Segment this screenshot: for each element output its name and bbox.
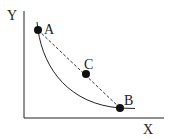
diagram-canvas: Y X A C B bbox=[0, 0, 172, 139]
dashed-chord bbox=[38, 30, 120, 108]
point-c-label: C bbox=[84, 57, 93, 72]
x-axis-label: X bbox=[143, 122, 153, 137]
point-b-label: B bbox=[124, 93, 133, 108]
y-axis-label: Y bbox=[7, 8, 17, 23]
point-b bbox=[116, 104, 124, 112]
point-a-label: A bbox=[44, 22, 55, 37]
point-a bbox=[34, 26, 42, 34]
